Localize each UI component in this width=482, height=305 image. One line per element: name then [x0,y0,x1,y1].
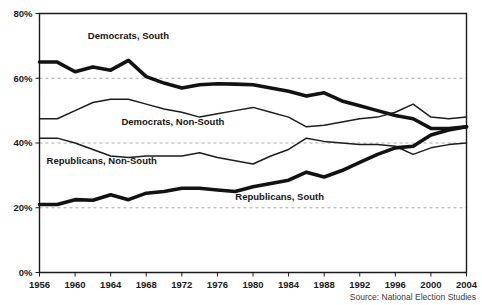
y-tick-label-20: 20% [13,202,33,213]
y-tick-label-80: 80% [13,8,33,19]
series-label-0: Democrats, South [88,30,169,41]
x-tick-label-1956: 1956 [29,279,50,290]
series-label-3: Republicans, South [235,191,324,202]
x-tick-label-1996: 1996 [385,279,406,290]
y-tick-label-60: 60% [13,73,33,84]
x-tick-label-1968: 1968 [136,279,157,290]
x-tick-label-1964: 1964 [100,279,122,290]
x-tick-label-1972: 1972 [171,279,192,290]
x-tick-label-1988: 1988 [314,279,335,290]
x-tick-label-1980: 1980 [242,279,263,290]
series-label-1: Democrats, Non-South [121,116,224,127]
x-tick-label-2004: 2004 [456,279,478,290]
x-axis-labels: 1956196019641968197219761980198419881992… [29,279,478,290]
series-line-1 [40,99,467,127]
y-axis-labels: 0%20%40%60%80% [13,8,33,278]
series-line-0 [40,60,467,128]
x-tick-label-1960: 1960 [65,279,86,290]
source-note: Source: National Election Studies [350,292,476,302]
y-tick-label-0: 0% [19,267,33,278]
x-tick-label-2000: 2000 [420,279,441,290]
x-tick-label-1992: 1992 [349,279,370,290]
x-tick-label-1976: 1976 [207,279,228,290]
line-chart: 0%20%40%60%80% 1956196019641968197219761… [0,0,482,305]
chart-container: 0%20%40%60%80% 1956196019641968197219761… [0,0,482,305]
series-label-2: Republicans, Non-South [47,155,158,166]
x-tick-label-1984: 1984 [278,279,300,290]
data-series [40,60,467,204]
y-tick-label-40: 40% [13,137,33,148]
